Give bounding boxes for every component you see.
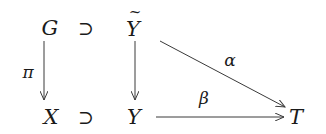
node-t: T <box>289 107 303 128</box>
superset-symbol-top: ⊃ <box>78 19 94 38</box>
arrow-alpha <box>160 41 285 107</box>
tilde-accent: ~ <box>129 3 142 21</box>
label-alpha: α <box>224 52 235 69</box>
node-g: G <box>42 18 59 39</box>
label-beta: β <box>199 90 209 107</box>
node-y: Y <box>127 107 141 128</box>
label-pi: π <box>22 64 33 81</box>
superset-symbol-bottom: ⊃ <box>78 108 94 127</box>
node-y-tilde: Y <box>126 19 140 40</box>
node-x: X <box>44 107 59 128</box>
